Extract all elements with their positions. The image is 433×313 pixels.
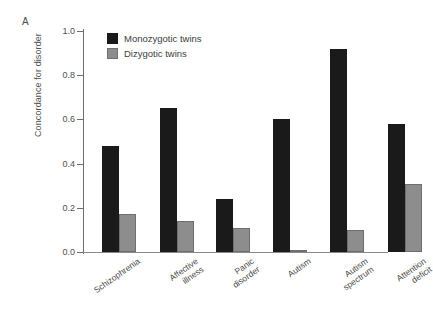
legend-item: Monozygotic twins [107, 33, 202, 44]
y-axis-tick-label: 0.2 [23, 203, 75, 213]
legend-item: Dizygotic twins [107, 48, 202, 59]
y-axis-tick-label: 0.6 [23, 114, 75, 124]
legend-swatch-icon [107, 48, 118, 59]
legend-swatch-icon [107, 33, 118, 44]
bar-dizygotic [119, 214, 136, 252]
bar-monozygotic [102, 146, 119, 252]
bar-dizygotic [233, 228, 250, 252]
bar-dizygotic [177, 221, 194, 252]
y-axis-tick-label: 0.4 [23, 159, 75, 169]
x-axis-line [83, 252, 388, 253]
y-axis-tick-label: 1.0 [23, 26, 75, 36]
bar-dizygotic [290, 250, 307, 252]
bar-dizygotic [405, 184, 422, 253]
y-axis-tick [77, 252, 83, 253]
chart-legend: Monozygotic twinsDizygotic twins [107, 33, 202, 63]
plot-area [83, 31, 388, 252]
y-axis-tick-label: 0.0 [23, 247, 75, 257]
bar-dizygotic [347, 230, 364, 252]
bar-monozygotic [388, 124, 405, 252]
bar-monozygotic [160, 108, 177, 252]
bar-monozygotic [216, 199, 233, 252]
bar-monozygotic [330, 49, 347, 252]
bar-monozygotic [273, 119, 290, 252]
y-axis-tick-label: 0.8 [23, 70, 75, 80]
legend-label: Monozygotic twins [124, 33, 202, 44]
legend-label: Dizygotic twins [124, 48, 187, 59]
